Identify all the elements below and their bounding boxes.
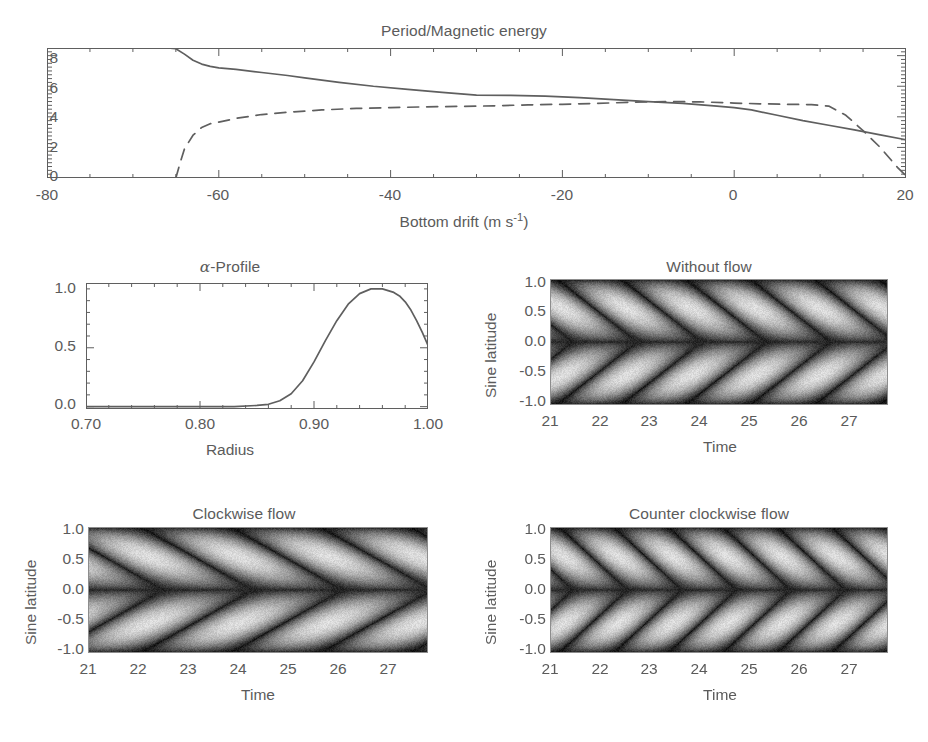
xtick-ccw-24: 24 xyxy=(671,660,727,678)
xtick-alpha-080: 0.80 xyxy=(167,415,233,433)
panel-title-clockwise: Clockwise flow xyxy=(28,505,460,523)
xtick-ccw-21: 21 xyxy=(522,660,578,678)
panel-title-alpha-rest: -Profile xyxy=(210,258,260,275)
xtick-wf-21: 21 xyxy=(522,412,578,430)
butterfly-image-clockwise xyxy=(88,527,428,653)
ytick-cw-m10: -1.0 xyxy=(26,640,84,658)
xtick-period-20: 20 xyxy=(875,186,928,204)
alpha-glyph: α xyxy=(200,258,211,276)
ytick-alpha-10: 1.0 xyxy=(14,279,76,297)
panel-period-magnetic-energy: Period/Magnetic energy 0 2 4 6 8 -80 -60… xyxy=(0,0,928,240)
xtick-cw-23: 23 xyxy=(160,660,216,678)
ytick-ccw-10: 1.0 xyxy=(488,520,546,538)
xtick-period-m80: -80 xyxy=(17,186,77,204)
panel-title-counter-clockwise: Counter clockwise flow xyxy=(490,505,928,523)
xtick-ccw-25: 25 xyxy=(721,660,777,678)
ytick-cw-m05: -0.5 xyxy=(26,610,84,628)
panel-title-without-flow: Without flow xyxy=(490,258,928,276)
axis-label-sine-latitude-without-flow: Sine latitude xyxy=(482,313,500,398)
butterfly-image-without-flow xyxy=(550,279,888,405)
xtick-cw-26: 26 xyxy=(310,660,366,678)
plot-area-period xyxy=(47,48,906,178)
xtick-period-0: 0 xyxy=(703,186,763,204)
ytick-cw-00: 0.0 xyxy=(26,580,84,598)
axis-label-sine-latitude-clockwise: Sine latitude xyxy=(22,560,40,645)
ytick-wf-m10: -1.0 xyxy=(488,392,546,410)
axis-label-bottom-drift-text: Bottom drift (m s xyxy=(400,213,514,230)
alpha-plot-svg xyxy=(86,283,428,409)
xtick-cw-22: 22 xyxy=(110,660,166,678)
axis-label-bottom-drift-exponent: -1 xyxy=(513,211,523,223)
butterfly-image-counter-clockwise xyxy=(550,527,888,653)
butterfly-canvas-clockwise xyxy=(88,527,428,653)
ytick-wf-m05: -0.5 xyxy=(488,362,546,380)
xtick-cw-21: 21 xyxy=(60,660,116,678)
axis-label-radius: Radius xyxy=(0,441,460,459)
ytick-cw-10: 1.0 xyxy=(26,520,84,538)
xtick-ccw-26: 26 xyxy=(771,660,827,678)
axis-label-time-without-flow: Time xyxy=(550,438,890,456)
axis-label-bottom-drift-tail: ) xyxy=(523,213,528,230)
panel-clockwise-flow: Clockwise flow Sine latitude 1.0 0.5 0.0… xyxy=(0,487,460,742)
axis-label-time-counter-clockwise: Time xyxy=(550,686,890,704)
ytick-cw-05: 0.5 xyxy=(26,550,84,568)
period-plot-svg xyxy=(47,48,906,178)
ytick-wf-10: 1.0 xyxy=(488,273,546,291)
xtick-ccw-27: 27 xyxy=(821,660,877,678)
xtick-alpha-100: 1.00 xyxy=(395,415,461,433)
ytick-wf-00: 0.0 xyxy=(488,332,546,350)
panel-title-alpha: α-Profile xyxy=(0,258,460,276)
axis-label-time-clockwise: Time xyxy=(88,686,428,704)
ytick-wf-05: 0.5 xyxy=(488,302,546,320)
xtick-wf-25: 25 xyxy=(721,412,777,430)
xtick-wf-22: 22 xyxy=(572,412,628,430)
xtick-wf-24: 24 xyxy=(671,412,727,430)
xtick-cw-25: 25 xyxy=(260,660,316,678)
panel-alpha-profile: α-Profile 0.0 0.5 1.0 0.70 0.80 0.90 1.0… xyxy=(0,240,460,490)
xtick-wf-27: 27 xyxy=(821,412,877,430)
xtick-wf-23: 23 xyxy=(621,412,677,430)
panel-title-period: Period/Magnetic energy xyxy=(0,22,928,40)
axis-label-sine-latitude-counter-clockwise: Sine latitude xyxy=(482,560,500,645)
ytick-alpha-05: 0.5 xyxy=(14,337,76,355)
xtick-alpha-070: 0.70 xyxy=(53,415,119,433)
xtick-wf-26: 26 xyxy=(771,412,827,430)
xtick-cw-27: 27 xyxy=(360,660,416,678)
panel-counter-clockwise-flow: Counter clockwise flow Sine latitude 1.0… xyxy=(460,487,928,742)
axis-label-bottom-drift: Bottom drift (m s-1) xyxy=(0,211,928,231)
butterfly-canvas-without-flow xyxy=(550,279,888,405)
figure-root: Period/Magnetic energy 0 2 4 6 8 -80 -60… xyxy=(0,0,928,742)
xtick-ccw-22: 22 xyxy=(572,660,628,678)
butterfly-canvas-counter-clockwise xyxy=(550,527,888,653)
ytick-ccw-m10: -1.0 xyxy=(488,640,546,658)
ytick-ccw-m05: -0.5 xyxy=(488,610,546,628)
panel-without-flow: Without flow Sine latitude 1.0 0.5 0.0 -… xyxy=(460,240,928,490)
ytick-ccw-05: 0.5 xyxy=(488,550,546,568)
ytick-ccw-00: 0.0 xyxy=(488,580,546,598)
xtick-ccw-23: 23 xyxy=(621,660,677,678)
xtick-alpha-090: 0.90 xyxy=(281,415,347,433)
xtick-period-m60: -60 xyxy=(188,186,248,204)
xtick-cw-24: 24 xyxy=(210,660,266,678)
xtick-period-m40: -40 xyxy=(360,186,420,204)
xtick-period-m20: -20 xyxy=(532,186,592,204)
plot-area-alpha xyxy=(86,283,428,409)
ytick-alpha-00: 0.0 xyxy=(14,395,76,413)
